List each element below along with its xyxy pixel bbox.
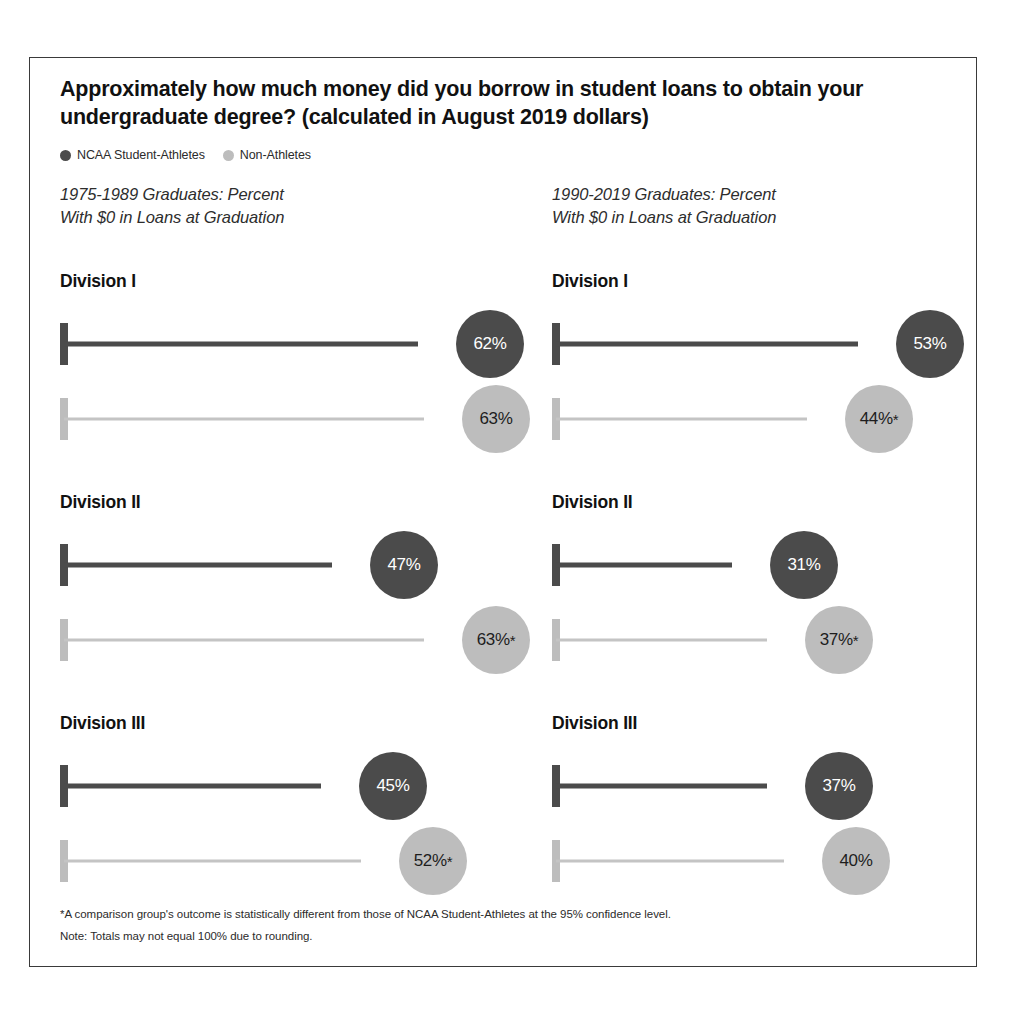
footnote-rounding: Note: Totals may not equal 100% due to r… xyxy=(60,926,940,948)
lollipop-row-athletes: 62% xyxy=(60,306,490,382)
value-bubble-athletes: 47% xyxy=(370,531,438,599)
lollipop-row-nonathletes: 63% xyxy=(60,382,490,456)
division-label: Division I xyxy=(60,271,490,292)
division-label: Division II xyxy=(552,492,982,513)
lollipop-row-athletes: 47% xyxy=(60,527,490,603)
panel-right-subtitle: 1990-2019 Graduates: Percent With $0 in … xyxy=(552,183,982,233)
lollipop-stem xyxy=(556,563,732,568)
panel-right-subtitle-line1: 1990-2019 Graduates: Percent xyxy=(552,183,982,206)
bubble-value: 53% xyxy=(913,334,946,354)
lollipop-stem xyxy=(64,563,332,568)
bubble-star: * xyxy=(893,411,899,428)
division-label: Division I xyxy=(552,271,982,292)
lollipop-stem xyxy=(556,860,784,863)
lollipop-row-nonathletes: 52%* xyxy=(60,824,490,898)
lollipop-stem xyxy=(556,784,767,789)
division-group-3: Division III 45% 52%* xyxy=(60,713,490,898)
panel-left-subtitle-line1: 1975-1989 Graduates: Percent xyxy=(60,183,490,206)
bubble-value: 45% xyxy=(376,776,409,796)
lollipop-row-athletes: 53% xyxy=(552,306,982,382)
lollipop-row-nonathletes: 37%* xyxy=(552,603,982,677)
panel-left-subtitle-line2: With $0 in Loans at Graduation xyxy=(60,206,490,229)
division-group-3: Division III 37% 40% xyxy=(552,713,982,898)
value-bubble-nonathletes: 37%* xyxy=(805,606,873,674)
value-bubble-athletes: 31% xyxy=(770,531,838,599)
lollipop-row-nonathletes: 44%* xyxy=(552,382,982,456)
bubble-star: * xyxy=(510,632,516,649)
lollipop-row-athletes: 37% xyxy=(552,748,982,824)
bubble-value: 44% xyxy=(860,409,893,429)
legend-dot-dark-icon xyxy=(60,150,71,161)
lollipop-row-nonathletes: 40% xyxy=(552,824,982,898)
value-bubble-nonathletes: 44%* xyxy=(845,385,913,453)
lollipop-stem xyxy=(556,639,767,642)
panel-1975-1989: 1975-1989 Graduates: Percent With $0 in … xyxy=(60,183,490,898)
bubble-value: 63% xyxy=(479,409,512,429)
division-group-1: Division I 53% 44%* xyxy=(552,271,982,456)
value-bubble-athletes: 37% xyxy=(805,752,873,820)
legend-dot-light-icon xyxy=(223,150,234,161)
division-label: Division III xyxy=(552,713,982,734)
bubble-star: * xyxy=(853,632,859,649)
legend-label-nonathletes: Non-Athletes xyxy=(240,148,311,162)
bubble-value: 37% xyxy=(820,630,853,650)
value-bubble-athletes: 62% xyxy=(456,310,524,378)
legend-item-athletes: NCAA Student-Athletes xyxy=(60,148,205,162)
footnote-significance: *A comparison group's outcome is statist… xyxy=(60,904,940,926)
bubble-value: 37% xyxy=(822,776,855,796)
lollipop-row-athletes: 45% xyxy=(60,748,490,824)
panel-1990-2019: 1990-2019 Graduates: Percent With $0 in … xyxy=(552,183,982,898)
lollipop-row-athletes: 31% xyxy=(552,527,982,603)
bubble-value: 47% xyxy=(387,555,420,575)
value-bubble-nonathletes: 40% xyxy=(822,827,890,895)
division-label: Division III xyxy=(60,713,490,734)
lollipop-stem xyxy=(64,342,418,347)
bubble-value: 52% xyxy=(414,851,447,871)
bubble-value: 63% xyxy=(477,630,510,650)
division-group-2: Division II 47% 63%* xyxy=(60,492,490,677)
value-bubble-athletes: 53% xyxy=(896,310,964,378)
lollipop-stem xyxy=(556,342,858,347)
division-group-1: Division I 62% 63% xyxy=(60,271,490,456)
bubble-value: 62% xyxy=(473,334,506,354)
value-bubble-nonathletes: 63%* xyxy=(462,606,530,674)
lollipop-stem xyxy=(64,860,361,863)
footnotes: *A comparison group's outcome is statist… xyxy=(60,904,940,948)
lollipop-stem xyxy=(64,784,321,789)
bubble-value: 31% xyxy=(787,555,820,575)
value-bubble-nonathletes: 63% xyxy=(462,385,530,453)
division-label: Division II xyxy=(60,492,490,513)
legend-item-nonathletes: Non-Athletes xyxy=(223,148,311,162)
bubble-value: 40% xyxy=(839,851,872,871)
value-bubble-athletes: 45% xyxy=(359,752,427,820)
lollipop-stem xyxy=(556,418,807,421)
chart-legend: NCAA Student-Athletes Non-Athletes xyxy=(60,147,958,163)
bubble-star: * xyxy=(447,853,453,870)
lollipop-stem xyxy=(64,639,424,642)
panel-left-subtitle: 1975-1989 Graduates: Percent With $0 in … xyxy=(60,183,490,233)
value-bubble-nonathletes: 52%* xyxy=(399,827,467,895)
legend-label-athletes: NCAA Student-Athletes xyxy=(77,148,205,162)
division-group-2: Division II 31% 37%* xyxy=(552,492,982,677)
lollipop-row-nonathletes: 63%* xyxy=(60,603,490,677)
page-title: Approximately how much money did you bor… xyxy=(60,76,940,131)
panel-right-subtitle-line2: With $0 in Loans at Graduation xyxy=(552,206,982,229)
lollipop-stem xyxy=(64,418,424,421)
chart-inner: Approximately how much money did you bor… xyxy=(60,76,958,956)
chart-card: Approximately how much money did you bor… xyxy=(29,57,977,967)
